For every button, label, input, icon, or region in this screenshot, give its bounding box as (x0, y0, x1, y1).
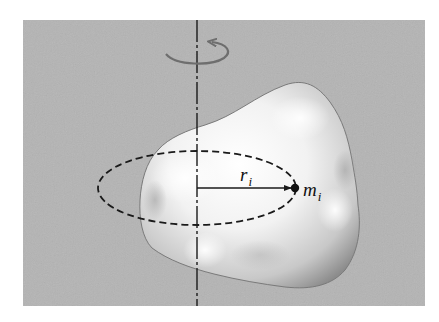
rigid-body-rotation-diagram: ri mi (0, 0, 439, 322)
mass-point (291, 184, 299, 192)
